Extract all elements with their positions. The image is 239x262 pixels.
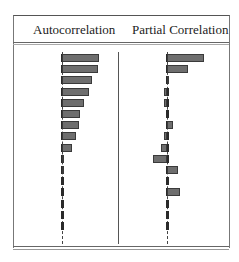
correlation-bar xyxy=(62,121,79,129)
correlation-bar xyxy=(62,166,64,174)
bottom-rule xyxy=(13,246,229,247)
correlation-bar xyxy=(62,99,84,107)
lag-tick xyxy=(61,188,64,196)
correlation-bar xyxy=(167,65,188,73)
lag-tick xyxy=(61,211,64,219)
correlation-bar xyxy=(164,88,167,96)
correlation-bar xyxy=(62,65,98,73)
correlation-bar xyxy=(62,155,64,163)
correlation-bar xyxy=(167,76,169,84)
lag-tick xyxy=(166,200,169,208)
correlation-bar xyxy=(62,132,76,140)
correlation-bar xyxy=(167,121,173,129)
correlation-bar xyxy=(62,76,92,84)
lag-tick xyxy=(61,177,64,185)
header-rule xyxy=(13,42,229,43)
partial-correlation-header: Partial Correlation xyxy=(132,22,228,38)
correlation-bar xyxy=(167,188,180,196)
lag-tick xyxy=(61,222,64,230)
correlation-bar xyxy=(161,144,167,152)
lag-tick xyxy=(61,200,64,208)
correlation-bar xyxy=(164,99,167,107)
correlation-bar xyxy=(153,155,167,163)
lag-tick xyxy=(166,222,169,230)
correlation-bar xyxy=(62,88,89,96)
correlation-bar xyxy=(167,166,178,174)
bottom-rule-double xyxy=(13,249,229,250)
correlogram-frame xyxy=(13,15,230,248)
correlation-bar xyxy=(167,54,204,62)
autocorrelation-header: Autocorrelation xyxy=(33,22,115,38)
lag-tick xyxy=(166,177,169,185)
correlation-bar xyxy=(62,110,80,118)
correlation-bar xyxy=(62,144,72,152)
lag-tick xyxy=(166,110,169,118)
header-rule-double xyxy=(13,44,229,45)
correlation-bar xyxy=(62,54,99,62)
correlation-bar xyxy=(164,132,167,140)
lag-tick xyxy=(166,211,169,219)
column-divider xyxy=(118,52,119,244)
